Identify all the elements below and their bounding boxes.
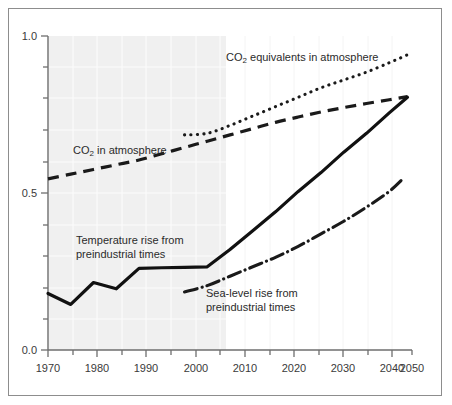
x-tick-label-2020: 2020	[282, 362, 306, 374]
x-tick-label-2050: 2050	[400, 362, 424, 374]
x-tick-label-1970: 1970	[36, 362, 60, 374]
y-axis-ticks	[41, 36, 48, 350]
x-tick-label-2000: 2000	[184, 362, 208, 374]
annotation-temperature-line1: Temperature rise from	[76, 234, 184, 246]
annotation-co2-suffix: in atmosphere	[94, 144, 167, 156]
annotation-co2: CO2 in atmosphere	[73, 144, 167, 158]
x-tick-label-2030: 2030	[331, 362, 355, 374]
x-tick-label-1990: 1990	[134, 362, 158, 374]
annotation-co2eq-suffix: equivalents in atmosphere	[247, 51, 378, 63]
x-axis-ticks	[48, 350, 412, 357]
y-tick-label-0_5: 0.5	[22, 187, 37, 199]
annotation-sea-level-line1: Sea-level rise from	[206, 287, 298, 299]
annotation-co2eq-prefix: CO	[226, 51, 243, 63]
y-tick-label-0: 0.0	[22, 344, 37, 356]
annotation-temperature-line2: preindustrial times	[76, 248, 166, 260]
annotation-co2-equivalents: CO2 equivalents in atmosphere	[226, 51, 378, 65]
climate-projection-chart: 1.0 0.5 0.0 1970 1980 1990 2000 2010 202…	[0, 0, 452, 405]
x-tick-label-2010: 2010	[233, 362, 257, 374]
annotation-sea-level-line2: preindustrial times	[206, 301, 296, 313]
x-tick-label-1980: 1980	[85, 362, 109, 374]
chart-figure: 1.0 0.5 0.0 1970 1980 1990 2000 2010 202…	[0, 0, 452, 405]
annotation-co2-prefix: CO	[73, 144, 90, 156]
y-tick-label-1: 1.0	[22, 30, 37, 42]
